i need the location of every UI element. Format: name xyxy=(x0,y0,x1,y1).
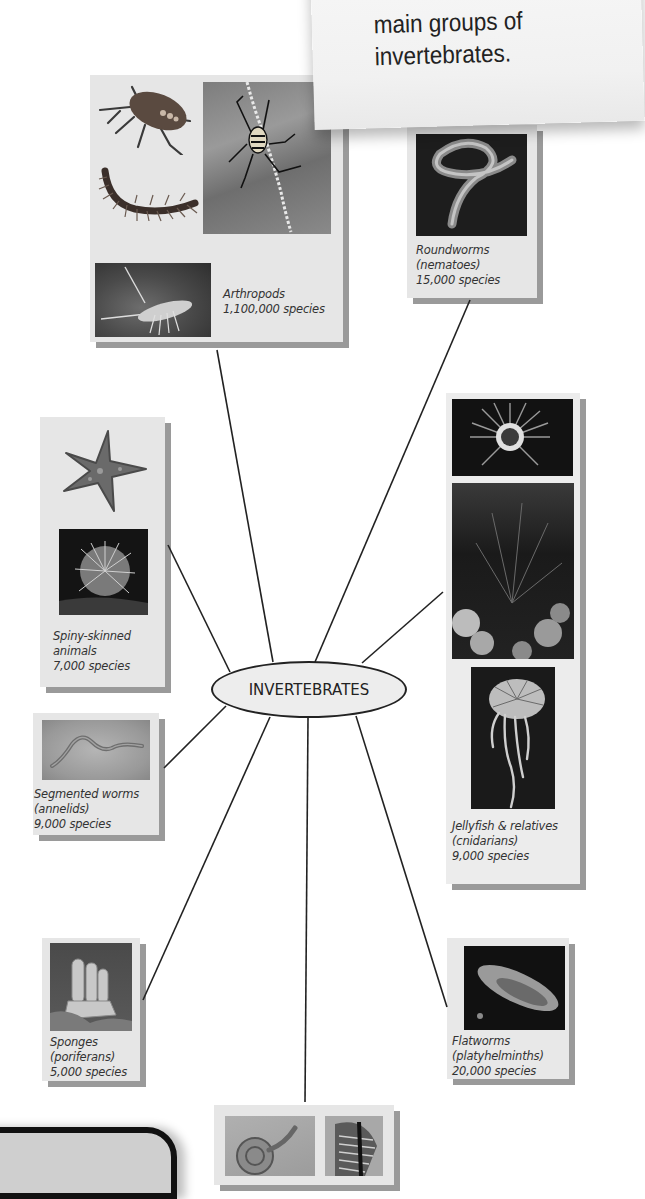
intro-note-text: main groups of invertebrates. xyxy=(373,4,524,72)
invertebrates-hub: INVERTEBRATES xyxy=(211,661,407,718)
intro-note: main groups of invertebrates. xyxy=(310,0,645,130)
hub-label: INVERTEBRATES xyxy=(249,681,370,699)
connector-molluscs xyxy=(305,718,308,1102)
connector-spiny-skinned xyxy=(168,545,230,672)
connector-flatworms xyxy=(356,716,447,1007)
note-line-1: main groups of xyxy=(373,4,523,40)
connector-sponges xyxy=(143,717,270,1000)
note-line-2: invertebrates. xyxy=(374,36,524,72)
connector-roundworms xyxy=(315,300,470,662)
connector-segmented-worms xyxy=(164,706,226,768)
connector-jellyfish xyxy=(362,592,443,663)
connector-arthropods xyxy=(217,350,273,662)
